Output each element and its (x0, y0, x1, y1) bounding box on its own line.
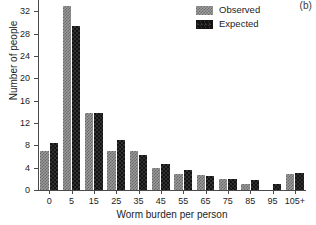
bar-expected-65 (206, 176, 215, 190)
bar-observed-0 (40, 151, 49, 190)
bar-observed-55 (174, 174, 183, 190)
x-tick-mark (183, 190, 184, 194)
x-axis-title: Worm burden per person (38, 209, 306, 220)
bars-layer (38, 0, 306, 190)
bar-observed-15 (85, 113, 94, 190)
bar-expected-55 (184, 170, 193, 190)
x-tick-label: 45 (156, 196, 166, 206)
bar-observed-75 (219, 179, 228, 190)
bar-expected-0 (50, 143, 59, 190)
x-tick-mark (295, 190, 296, 194)
bar-expected-85 (251, 180, 260, 190)
x-tick-mark (139, 190, 140, 194)
x-tick-label: 25 (111, 196, 121, 206)
bar-observed-105+ (286, 174, 295, 190)
bar-expected-95 (273, 184, 282, 190)
bar-expected-35 (139, 155, 148, 190)
y-tick-label: 8 (10, 140, 30, 150)
x-tick-label: 65 (200, 196, 210, 206)
bar-observed-65 (197, 175, 206, 190)
x-tick-label: 105+ (285, 196, 305, 206)
x-tick-mark (228, 190, 229, 194)
y-tick-label: 12 (10, 118, 30, 128)
x-tick-mark (161, 190, 162, 194)
y-tick-label: 24 (10, 51, 30, 61)
x-tick-label: 55 (178, 196, 188, 206)
y-tick-label: 4 (10, 163, 30, 173)
x-tick-label: 35 (133, 196, 143, 206)
bar-expected-5 (72, 26, 81, 190)
y-tick-label: 16 (10, 96, 30, 106)
bar-observed-25 (107, 151, 116, 190)
x-tick-mark (273, 190, 274, 194)
bar-expected-45 (161, 164, 170, 190)
x-tick-label: 75 (223, 196, 233, 206)
x-tick-label: 95 (267, 196, 277, 206)
bar-expected-75 (228, 179, 237, 190)
x-tick-label: 15 (89, 196, 99, 206)
x-tick-mark (94, 190, 95, 194)
bar-observed-5 (63, 6, 72, 190)
bar-observed-85 (241, 184, 250, 190)
bar-observed-45 (152, 168, 161, 190)
y-tick-label: 32 (10, 6, 30, 16)
bar-observed-35 (130, 151, 139, 190)
y-tick-label: 0 (10, 185, 30, 195)
y-tick-label: 20 (10, 73, 30, 83)
y-tick-mark (34, 190, 38, 191)
x-tick-label: 0 (47, 196, 52, 206)
bar-expected-25 (117, 140, 126, 190)
bar-expected-15 (94, 113, 103, 190)
bar-expected-105+ (295, 173, 304, 190)
y-tick-label: 28 (10, 29, 30, 39)
x-tick-mark (72, 190, 73, 194)
x-tick-mark (250, 190, 251, 194)
x-tick-mark (49, 190, 50, 194)
x-tick-mark (206, 190, 207, 194)
x-tick-mark (116, 190, 117, 194)
figure-bar-chart: (b) Observed Expected Number of people 0… (0, 0, 316, 225)
x-tick-label: 85 (245, 196, 255, 206)
x-axis-line (38, 190, 306, 191)
x-tick-label: 5 (69, 196, 74, 206)
